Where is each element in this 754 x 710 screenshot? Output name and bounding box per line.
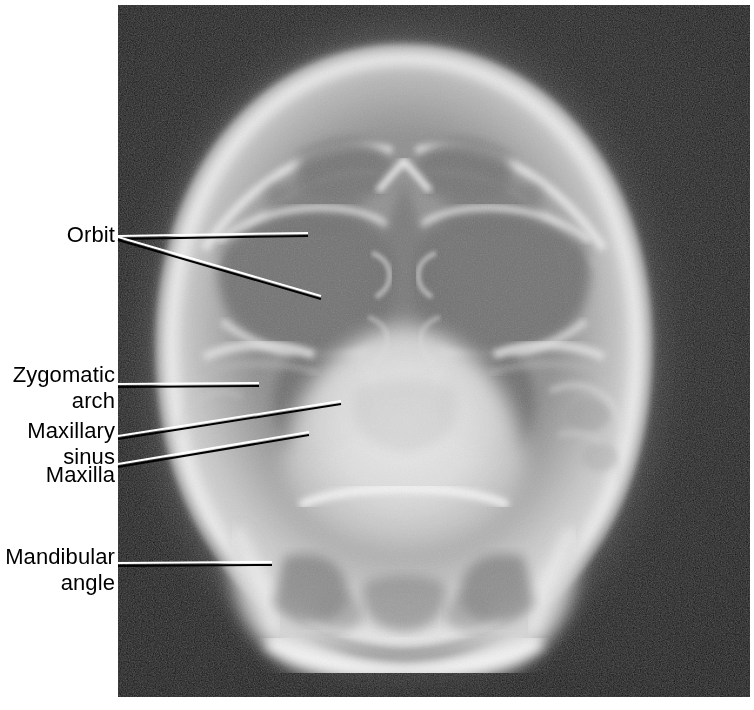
skull-radiograph-image xyxy=(118,5,750,697)
radiograph-figure: Orbit Zygomatic arch Maxillary sinus Max… xyxy=(0,0,754,710)
film-bottom-shadow xyxy=(118,673,750,697)
radiograph-canvas xyxy=(118,5,750,697)
label-orbit: Orbit xyxy=(0,222,115,248)
label-mandibular-angle: Mandibular angle xyxy=(0,544,115,596)
label-maxilla: Maxilla xyxy=(0,462,115,488)
label-zygomatic-arch: Zygomatic arch xyxy=(0,362,115,414)
